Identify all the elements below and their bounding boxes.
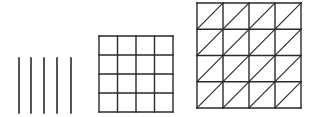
- cell-diagonal-line: [249, 82, 275, 108]
- cell-diagonal-line: [275, 82, 301, 108]
- cell-diagonal-line: [223, 3, 249, 29]
- parallel-lines-figure: [19, 58, 71, 113]
- cell-diagonal-line: [197, 56, 223, 82]
- cell-diagonal-line: [249, 29, 275, 55]
- cell-diagonal-line: [223, 29, 249, 55]
- cell-diagonal-line: [197, 29, 223, 55]
- cell-diagonal-line: [249, 3, 275, 29]
- square-grid-figure: [99, 36, 173, 112]
- cell-diagonal-line: [249, 56, 275, 82]
- cell-diagonal-line: [275, 56, 301, 82]
- triangulated-grid-figure: [197, 3, 301, 108]
- cell-diagonal-line: [275, 29, 301, 55]
- cell-diagonal-line: [223, 56, 249, 82]
- cell-diagonal-line: [275, 3, 301, 29]
- diagram-canvas: [0, 0, 315, 117]
- cell-diagonal-line: [197, 3, 223, 29]
- cell-diagonal-line: [223, 82, 249, 108]
- cell-diagonal-line: [197, 82, 223, 108]
